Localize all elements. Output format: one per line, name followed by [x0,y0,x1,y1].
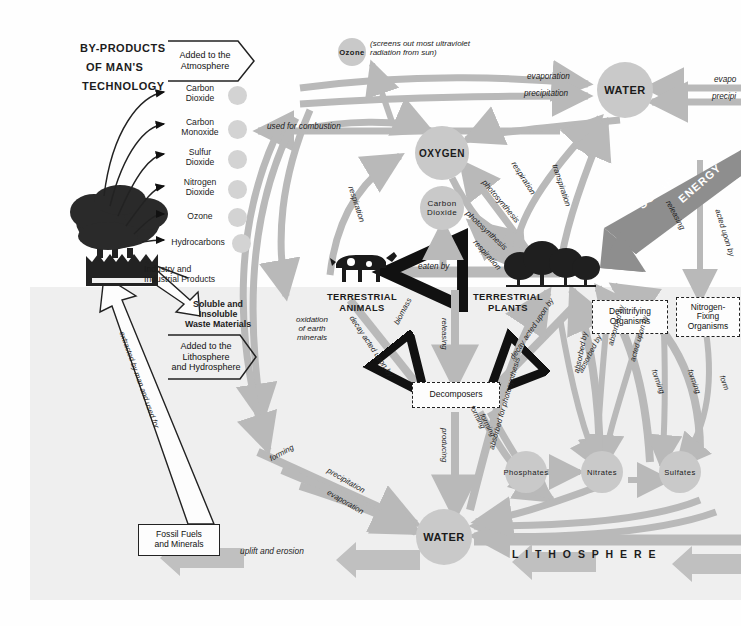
node-sulfates: Sulfates [659,451,701,493]
byproduct-dot-3 [228,180,247,199]
flow-eaten-by: eaten by [418,262,449,271]
byproduct-dot-4 [228,208,247,227]
box-denitrifying: Denitrifying Organisms [592,300,668,334]
flow-oxidation: oxidation of earth minerals [282,316,342,343]
flow-evaporation-left: evaporation [527,72,570,81]
box-nitrogen-fixing: Nitrogen- Fixing Organisms [676,297,740,337]
node-carbon-dioxide: Carbon Dioxide [420,186,464,230]
node-nitrates: Nitrates [581,451,623,493]
byproduct-label-5: Hydrocarbons [164,238,232,248]
byproduct-dot-2 [228,150,247,169]
title-line-3: TECHNOLOGY [82,80,165,92]
atmosphere-chevron-label: Added to the Atmosphere [170,44,240,78]
byproduct-label-0: Carbon Dioxide [172,84,228,103]
box-decomposers: Decomposers [412,382,500,408]
label-lithosphere: L I T H O S P H E R E [512,549,657,561]
flow-precipitation-left: precipitation [524,89,568,98]
byproduct-label-4: Ozone [172,212,228,222]
title-line-2: OF MAN'S [86,61,143,73]
byproduct-dot-5 [232,234,251,253]
byproduct-label-1: Carbon Monoxide [172,118,228,137]
flow-uplift-erosion: uplift and erosion [240,546,304,556]
flow-used-for-combustion: used for combustion [267,122,341,131]
title-line-1: BY-PRODUCTS [80,42,166,54]
node-ozone: Ozone [338,38,366,66]
byproduct-label-2: Sulfur Dioxide [172,148,228,167]
node-oxygen: OXYGEN [415,126,469,180]
cow-icon [330,252,397,282]
industry-caption: Industry and Industrial Products [144,265,215,284]
flow-evaporation-right: evapo [714,75,736,84]
label-terrestrial-animals: TERRESTRIAL ANIMALS [316,292,408,313]
waste-caption: Soluble and Insoluble Waste Materials [176,300,260,330]
box-fossil-fuels: Fossil Fuels and Minerals [138,524,220,556]
byproduct-label-3: Nitrogen Dioxide [172,178,228,197]
diagram-canvas: BY-PRODUCTS OF MAN'S TECHNOLOGY Added to… [0,0,741,626]
node-water-bottom: WATER [416,509,472,565]
byproduct-dot-0 [228,86,247,105]
flow-precipitation-right: precipi [712,92,736,101]
ozone-note: (screens out most ultraviolet radiation … [370,40,470,58]
lithosphere-chevron-label: Added to the Lithosphere and Hydrosphere [170,336,242,378]
byproduct-dot-1 [228,120,247,139]
node-phosphates: Phosphates [505,451,547,493]
node-water-top: WATER [597,62,653,118]
flow-producing: producing [440,428,449,462]
flow-releasing: releasing [440,318,449,350]
